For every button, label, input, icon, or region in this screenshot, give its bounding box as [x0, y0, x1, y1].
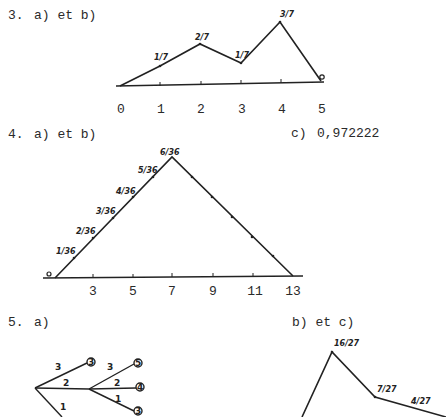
svg-text:16/27: 16/27	[334, 339, 360, 348]
svg-text:4/27: 4/27	[410, 397, 431, 406]
svg-text:7/27: 7/27	[377, 385, 397, 394]
chart-5-polyline: 16/27 7/27 4/27	[0, 0, 446, 417]
